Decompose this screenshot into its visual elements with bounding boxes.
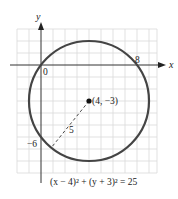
equation-label: (x − 4)² + (y + 3)² = 25 — [50, 177, 138, 188]
y-axis-arrow-icon — [38, 22, 44, 30]
x-axis — [10, 62, 166, 68]
origin-label: 0 — [43, 67, 48, 77]
radius-label: 5 — [69, 125, 74, 135]
y-axis-label: y — [35, 11, 41, 22]
y-intercept-label: −6 — [27, 139, 37, 149]
center-point — [86, 98, 91, 103]
x-intercept-label: 8 — [135, 55, 140, 65]
x-axis-arrow-icon — [158, 62, 166, 68]
y-axis — [38, 22, 44, 183]
circle-graph: y x 0 8 −6 (4, −3) 5 (x − 4)² + (y + 3)²… — [0, 0, 178, 199]
center-label: (4, −3) — [92, 96, 118, 107]
x-axis-label: x — [168, 59, 174, 70]
